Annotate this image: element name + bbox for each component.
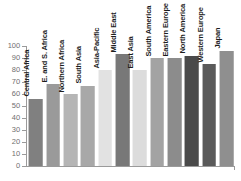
bar bbox=[167, 58, 182, 166]
y-tick-label: 80 bbox=[0, 66, 20, 74]
y-tick-label: 0 bbox=[0, 162, 20, 170]
y-tick-label: 70 bbox=[0, 78, 20, 86]
bar bbox=[63, 94, 78, 166]
bar bbox=[150, 58, 165, 166]
bar-category-label: Middle East bbox=[109, 12, 117, 52]
bar-group: North America bbox=[183, 46, 200, 166]
bar bbox=[184, 56, 199, 166]
bar-group: Japan bbox=[218, 46, 235, 166]
bar bbox=[98, 70, 113, 166]
bar-group: Eastern Europe bbox=[166, 46, 183, 166]
bar-group: Western Europe bbox=[200, 46, 217, 166]
bar bbox=[28, 99, 43, 166]
bar-category-label: Central Africa bbox=[23, 50, 31, 97]
y-tick-label: 60 bbox=[0, 90, 20, 98]
bar-category-label: South America bbox=[144, 5, 152, 56]
y-tick-label: 10 bbox=[0, 150, 20, 158]
bar bbox=[80, 86, 95, 166]
bar bbox=[132, 70, 147, 166]
bar-group: South America bbox=[148, 46, 165, 166]
bar-series: Central AfricaE. and S. AfricaNorthern A… bbox=[27, 46, 235, 166]
bar bbox=[115, 54, 130, 166]
bar-chart: 1009080706050403020100 Central AfricaE. … bbox=[0, 0, 241, 181]
bar-category-label: North America bbox=[179, 4, 187, 53]
bar-category-label: East Asia bbox=[127, 36, 135, 68]
bar-group: East Asia bbox=[131, 46, 148, 166]
bar-category-label: Northern Africa bbox=[57, 40, 65, 92]
bar-category-label: E. and S. Africa bbox=[40, 30, 48, 82]
bar bbox=[46, 84, 61, 166]
bar-category-label: Eastern Europe bbox=[161, 3, 169, 56]
y-tick-label: 90 bbox=[0, 54, 20, 62]
bar-category-label: Asia-Pacific bbox=[92, 27, 100, 68]
x-axis-end-tick bbox=[234, 166, 235, 170]
bar bbox=[202, 64, 217, 166]
y-tick-label: 100 bbox=[0, 42, 20, 50]
y-tick-label: 20 bbox=[0, 138, 20, 146]
bar-category-label: South Asia bbox=[75, 46, 83, 83]
bar bbox=[219, 51, 234, 166]
y-tick-label: 50 bbox=[0, 102, 20, 110]
y-tick-label: 30 bbox=[0, 126, 20, 134]
y-tick-label: 40 bbox=[0, 114, 20, 122]
x-axis-line bbox=[26, 166, 235, 167]
y-tick-mark bbox=[22, 166, 27, 167]
bar-group: Asia-Pacific bbox=[96, 46, 113, 166]
bar-category-label: Western Europe bbox=[196, 7, 204, 62]
bar-category-label: Japan bbox=[213, 28, 221, 49]
